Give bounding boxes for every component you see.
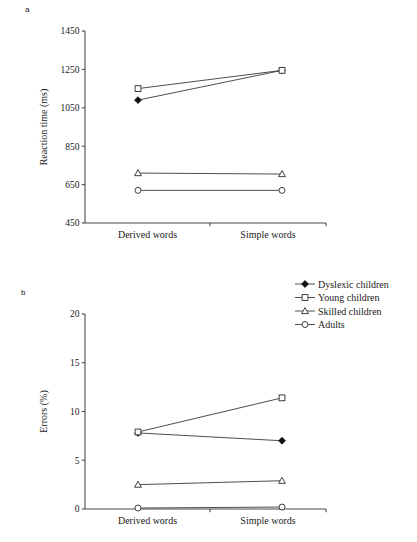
y-axis-title: Reaction time (ms) bbox=[38, 89, 50, 166]
data-point bbox=[279, 187, 285, 193]
series-line bbox=[138, 507, 282, 508]
y-tick-label: 850 bbox=[65, 142, 80, 152]
data-point bbox=[279, 437, 286, 444]
open-circle-icon bbox=[279, 187, 285, 193]
series-skilled-children bbox=[135, 477, 286, 487]
y-tick-label: 650 bbox=[65, 180, 80, 190]
series-line bbox=[138, 398, 282, 432]
legend: Dyslexic childrenYoung childrenSkilled c… bbox=[295, 279, 389, 331]
filled-diamond-icon bbox=[135, 97, 142, 104]
series-adults bbox=[135, 187, 285, 193]
open-square-icon bbox=[135, 86, 141, 92]
data-point bbox=[279, 67, 285, 73]
open-circle-icon bbox=[135, 187, 141, 193]
series-dyslexic-children bbox=[135, 430, 286, 445]
y-tick-label: 1450 bbox=[61, 26, 80, 36]
legend-item[interactable]: Skilled children bbox=[295, 306, 382, 317]
legend-label: Young children bbox=[318, 292, 379, 303]
data-point bbox=[135, 97, 142, 104]
y-tick-label: 1250 bbox=[61, 65, 80, 75]
series-line bbox=[138, 173, 282, 174]
figure-container: a 450650850105012501450Derived wordsSimp… bbox=[0, 0, 417, 542]
data-point bbox=[135, 86, 141, 92]
panel-a-plot: 450650850105012501450Derived wordsSimple… bbox=[0, 0, 417, 271]
y-tick-label: 1050 bbox=[61, 103, 80, 113]
legend-marker bbox=[302, 281, 309, 288]
open-triangle-icon bbox=[279, 477, 286, 483]
data-point bbox=[279, 395, 285, 401]
legend-item[interactable]: Dyslexic children bbox=[295, 279, 389, 290]
y-tick-label: 450 bbox=[65, 218, 80, 228]
x-category-label: Derived words bbox=[118, 515, 177, 526]
open-square-icon bbox=[279, 67, 285, 73]
legend-label: Skilled children bbox=[318, 306, 382, 317]
legend-marker bbox=[302, 295, 308, 301]
x-category-label: Simple words bbox=[240, 229, 295, 240]
series-line bbox=[138, 70, 282, 88]
y-tick-label: 5 bbox=[75, 456, 80, 466]
open-circle-icon bbox=[279, 504, 285, 510]
y-axis-title: Errors (%) bbox=[38, 390, 50, 432]
legend-marker bbox=[302, 322, 308, 328]
legend-item[interactable]: Young children bbox=[295, 292, 379, 303]
filled-diamond-icon bbox=[279, 437, 286, 444]
y-tick-label: 15 bbox=[70, 358, 80, 368]
data-point bbox=[279, 504, 285, 510]
panel-a: a 450650850105012501450Derived wordsSimp… bbox=[0, 0, 417, 271]
open-circle-icon bbox=[302, 322, 308, 328]
filled-diamond-icon bbox=[302, 281, 309, 288]
series-line bbox=[138, 481, 282, 485]
x-category-label: Derived words bbox=[118, 229, 177, 240]
legend-label: Dyslexic children bbox=[318, 279, 389, 290]
data-point bbox=[135, 187, 141, 193]
legend-item[interactable]: Adults bbox=[295, 319, 345, 330]
open-square-icon bbox=[279, 395, 285, 401]
open-circle-icon bbox=[135, 505, 141, 511]
legend-label: Adults bbox=[318, 319, 345, 330]
series-line bbox=[138, 433, 282, 441]
open-square-icon bbox=[135, 429, 141, 435]
x-category-label: Simple words bbox=[240, 515, 295, 526]
panel-b: b 05101520Derived wordsSimple wordsError… bbox=[0, 271, 417, 542]
series-skilled-children bbox=[135, 170, 286, 177]
series-young-children bbox=[135, 395, 285, 435]
y-tick-label: 10 bbox=[70, 407, 80, 417]
data-point bbox=[135, 429, 141, 435]
open-square-icon bbox=[302, 295, 308, 301]
series-young-children bbox=[135, 67, 285, 91]
series-line bbox=[138, 70, 282, 100]
panel-b-plot: 05101520Derived wordsSimple wordsErrors … bbox=[0, 271, 417, 542]
y-tick-label: 0 bbox=[75, 504, 80, 514]
data-point bbox=[279, 477, 286, 483]
data-point bbox=[135, 505, 141, 511]
y-tick-label: 20 bbox=[70, 309, 80, 319]
